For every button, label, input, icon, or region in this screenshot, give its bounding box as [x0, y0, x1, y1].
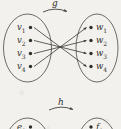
g-arrow [43, 9, 67, 12]
node-dot-e1 [29, 125, 32, 128]
node-label-v1: v1 [17, 23, 26, 34]
node-label-w1-sub: 1 [103, 27, 107, 34]
node-label-v3-sub: 3 [22, 53, 26, 60]
node-dot-v2 [29, 39, 32, 42]
node-label-v2: v2 [17, 36, 26, 47]
node-dot-w3 [89, 52, 92, 55]
h-arrow [49, 107, 73, 110]
node-label-v2-sub: 2 [22, 40, 26, 47]
node-dot-f1 [89, 125, 92, 128]
node-label-w4: w4 [96, 62, 107, 73]
node-label-f1-sub: 1 [99, 127, 103, 129]
map-label-h: h [58, 98, 64, 107]
mapping-diagram-figure: g v1 v2 v3 v4 w1 w2 w3 w4 h e1 f1 [0, 0, 121, 129]
node-label-v4-sub: 4 [22, 66, 26, 73]
node-label-v3: v3 [17, 49, 26, 60]
node-label-w2-sub: 2 [103, 40, 107, 47]
node-label-f1: f1 [96, 123, 103, 129]
node-dot-w2 [89, 39, 92, 42]
node-label-w4-sub: 4 [103, 66, 107, 73]
node-dot-v4 [29, 65, 32, 68]
node-label-v4: v4 [17, 62, 26, 73]
left-set-boundary [4, 14, 52, 82]
left-set-lower-boundary [4, 118, 52, 129]
node-dot-v1 [29, 26, 32, 29]
node-dot-w4 [89, 65, 92, 68]
node-label-w3-sub: 3 [103, 53, 107, 60]
node-label-v1-sub: 1 [22, 27, 26, 34]
node-dot-v3 [29, 52, 32, 55]
map-label-g: g [52, 0, 58, 8]
node-label-w1: w1 [96, 23, 107, 34]
node-label-w3: w3 [96, 49, 107, 60]
node-label-e1-sub: 1 [22, 127, 26, 129]
node-label-e1: e1 [17, 123, 26, 129]
node-dot-w1 [89, 26, 92, 29]
node-label-w2: w2 [96, 36, 107, 47]
